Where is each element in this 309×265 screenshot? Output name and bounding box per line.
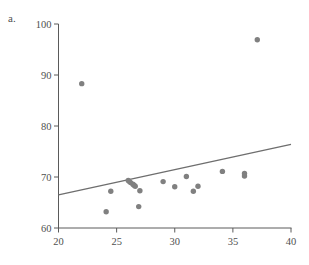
y-axis-tick-label: 60 (41, 223, 52, 234)
x-axis-tick-label: 40 (286, 236, 297, 247)
scatter-plot-figure: a. 607080901002025303540 (0, 0, 309, 265)
x-axis-tick-label: 20 (53, 236, 64, 247)
scatter-point (133, 183, 138, 188)
y-axis-tick-label: 90 (41, 70, 52, 81)
scatter-point (160, 179, 165, 184)
scatter-point (255, 37, 260, 42)
tick-labels-group: 607080901002025303540 (36, 19, 297, 247)
x-axis-tick-label: 30 (170, 236, 181, 247)
scatter-point (137, 188, 142, 193)
y-axis-tick-label: 70 (41, 172, 52, 183)
axes-group (59, 24, 292, 228)
y-axis-tick-label: 80 (41, 121, 52, 132)
scatter-point (79, 81, 84, 86)
scatter-point (108, 189, 113, 194)
scatter-point (191, 189, 196, 194)
scatter-point (172, 184, 177, 189)
plot-canvas: 607080901002025303540 (0, 0, 309, 265)
scatter-point (136, 204, 141, 209)
scatter-point (195, 183, 200, 188)
y-axis-tick-label: 100 (36, 19, 52, 30)
x-axis-tick-label: 25 (111, 236, 122, 247)
scatter-point (184, 174, 189, 179)
x-axis-tick-label: 35 (228, 236, 239, 247)
scatter-point (242, 173, 247, 178)
ticks-group (54, 24, 291, 233)
data-points-group (79, 37, 260, 214)
scatter-point (103, 209, 108, 214)
scatter-point (220, 169, 225, 174)
